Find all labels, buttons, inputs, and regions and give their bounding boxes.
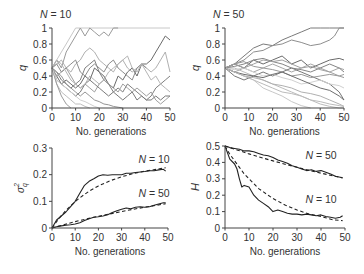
- series-line: [52, 28, 118, 68]
- x-tick-label: 0: [49, 232, 55, 243]
- series-annotation: N = 10: [305, 193, 336, 205]
- x-tick-label: 30: [291, 112, 303, 123]
- x-tick-label: 40: [315, 232, 327, 243]
- x-tick-label: 10: [243, 232, 255, 243]
- x-tick-label: 30: [291, 232, 303, 243]
- x-tick-label: 30: [116, 232, 128, 243]
- series-line: [225, 68, 344, 100]
- y-tick-label: 0.4: [33, 71, 47, 82]
- series-line: [52, 169, 166, 228]
- x-tick-label: 20: [267, 112, 279, 123]
- series-line: [52, 68, 170, 100]
- panel-variance: 0102030405000.10.20.3No. generationsσq2N…: [13, 143, 174, 258]
- y-tick-label: 0.5: [206, 141, 220, 152]
- x-tick-label: 20: [267, 232, 279, 243]
- y-tick-label: 0.1: [206, 206, 220, 217]
- series-annotation: N = 10: [138, 153, 169, 165]
- x-tick-label: 50: [164, 112, 176, 123]
- y-tick-label: 1: [214, 23, 220, 34]
- x-axis-label: No. generations: [250, 246, 321, 257]
- y-tick-label: 0: [214, 103, 220, 114]
- y-tick-label: 0.2: [206, 87, 220, 98]
- panel-title: N = 50: [213, 8, 244, 20]
- x-tick-label: 30: [117, 112, 129, 123]
- x-tick-label: 40: [141, 112, 153, 123]
- x-tick-label: 20: [94, 112, 106, 123]
- series-line: [52, 60, 146, 80]
- series-line: [52, 68, 123, 108]
- x-tick-label: 40: [139, 232, 151, 243]
- panel-q-n50: 0102030405000.20.40.60.81No. generations…: [189, 8, 350, 137]
- x-tick-label: 0: [49, 112, 55, 123]
- x-tick-label: 10: [70, 112, 82, 123]
- y-axis-label: q: [16, 64, 28, 71]
- figure: 0102030405000.20.40.60.81No. generations…: [0, 0, 364, 274]
- y-tick-label: 0.2: [33, 169, 47, 180]
- series-line: [52, 48, 170, 72]
- panel-q-n10: 0102030405000.20.40.60.81No. generations…: [16, 8, 176, 137]
- series-annotation: N = 50: [305, 149, 336, 161]
- y-tick-label: 0.4: [206, 157, 220, 168]
- panel-heterozygosity: 0102030405000.10.20.30.40.5No. generatio…: [189, 141, 351, 258]
- y-tick-label: 0.4: [206, 71, 220, 82]
- y-axis-label: q: [189, 64, 201, 71]
- y-tick-label: 0: [41, 103, 47, 114]
- x-tick-label: 0: [222, 112, 228, 123]
- x-tick-label: 10: [70, 232, 82, 243]
- x-tick-label: 20: [93, 232, 105, 243]
- y-axis-label: H: [189, 183, 201, 191]
- y-tick-label: 1: [41, 23, 47, 34]
- x-axis-label: No. generations: [76, 126, 147, 137]
- y-tick-label: 0.8: [33, 39, 47, 50]
- y-tick-label: 0: [41, 223, 47, 234]
- y-tick-label: 0.6: [33, 55, 47, 66]
- x-tick-label: 50: [338, 112, 350, 123]
- x-tick-label: 50: [162, 232, 174, 243]
- y-tick-label: 0.6: [206, 55, 220, 66]
- y-tick-label: 0.8: [206, 39, 220, 50]
- x-tick-label: 50: [339, 232, 351, 243]
- x-axis-label: No. generations: [249, 126, 320, 137]
- x-tick-label: 40: [315, 112, 327, 123]
- panel-title: N = 10: [40, 8, 71, 20]
- series-annotation: N = 50: [138, 187, 169, 199]
- x-tick-label: 10: [243, 112, 255, 123]
- y-tick-label: 0.1: [33, 196, 47, 207]
- y-tick-label: 0.3: [206, 173, 220, 184]
- y-tick-label: 0.2: [206, 190, 220, 201]
- x-tick-label: 0: [222, 232, 228, 243]
- y-tick-label: 0.2: [33, 87, 47, 98]
- x-axis-label: No. generations: [75, 246, 146, 257]
- y-tick-label: 0: [214, 223, 220, 234]
- y-tick-label: 0.3: [33, 143, 47, 154]
- y-axis-label: σq2: [13, 183, 29, 193]
